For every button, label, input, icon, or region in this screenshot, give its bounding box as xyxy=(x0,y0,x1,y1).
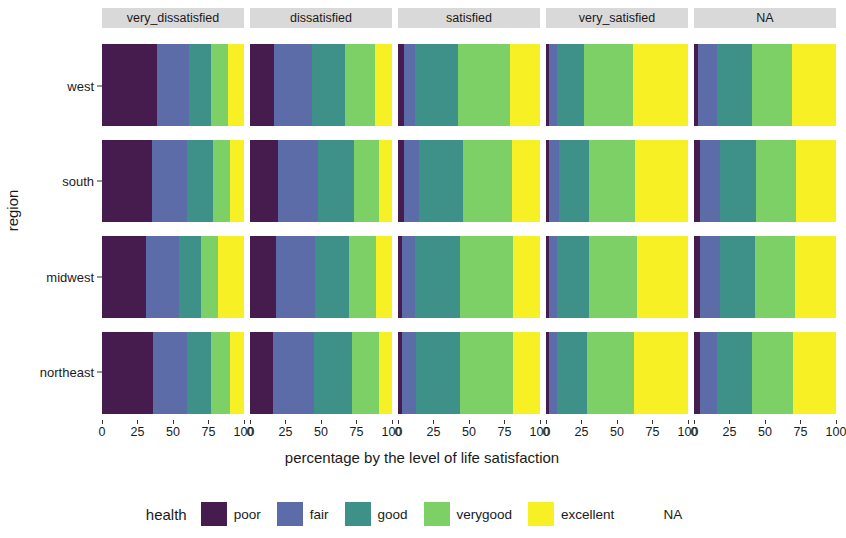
legend-item[interactable]: excellent xyxy=(528,502,614,526)
x-axis-tick-mark xyxy=(285,420,286,424)
x-axis-tick-label: 0 xyxy=(691,425,698,439)
stacked-bar xyxy=(694,332,836,414)
bar-segment-fair xyxy=(278,140,318,222)
bar-segment-excellent xyxy=(379,140,392,222)
x-axis-tick-mark xyxy=(469,420,470,424)
x-axis-tick-label: 0 xyxy=(247,425,254,439)
bar-segment-poor xyxy=(102,236,146,318)
bar-segment-fair xyxy=(273,332,314,414)
bar-segment-verygood xyxy=(589,236,637,318)
facet-plot-area xyxy=(546,38,688,420)
stacked-bar xyxy=(250,236,392,318)
x-axis-tick-label: 50 xyxy=(314,425,328,439)
legend-swatch-fair xyxy=(277,502,303,526)
bar-segment-good xyxy=(559,140,589,222)
bar-segment-fair xyxy=(146,236,179,318)
bar-segment-good xyxy=(717,332,753,414)
bar-segment-good xyxy=(415,44,458,126)
x-axis-tick-mark xyxy=(250,420,251,424)
x-axis-tick-mark xyxy=(173,420,174,424)
bar-segment-poor xyxy=(102,140,152,222)
bar-segment-verygood xyxy=(589,140,636,222)
x-axis-tick-mark xyxy=(398,420,399,424)
facet-strip-label: satisfied xyxy=(398,8,540,28)
legend-item[interactable]: poor xyxy=(201,502,261,526)
x-axis-tick-mark xyxy=(540,420,541,424)
stacked-bar xyxy=(398,140,540,222)
bar-segment-good xyxy=(419,140,463,222)
bar-segment-fair xyxy=(402,236,415,318)
bar-segment-verygood xyxy=(352,332,379,414)
facet-panel: very_satisfied xyxy=(546,8,688,420)
legend-swatch-excellent xyxy=(528,502,554,526)
x-axis-tick-label: 75 xyxy=(646,425,660,439)
bar-segment-verygood xyxy=(752,332,793,414)
x-axis-tick-label: 0 xyxy=(395,425,402,439)
legend-item[interactable]: NA xyxy=(630,502,682,526)
x-axis-tick-mark xyxy=(102,420,103,424)
bar-segment-excellent xyxy=(228,44,244,126)
stacked-bar xyxy=(546,236,688,318)
facet-strip-label: NA xyxy=(694,8,836,28)
y-axis-tick-label: northeast xyxy=(40,365,94,380)
x-axis-tick-label: 75 xyxy=(202,425,216,439)
facet-strip-label: very_dissatisfied xyxy=(102,8,244,28)
bar-segment-excellent xyxy=(637,236,688,318)
bar-segment-poor xyxy=(250,140,278,222)
bar-segment-fair xyxy=(700,332,717,414)
stacked-bar xyxy=(694,140,836,222)
bar-segment-excellent xyxy=(513,332,540,414)
x-axis-tick-mark xyxy=(765,420,766,424)
x-axis-tick-label: 50 xyxy=(166,425,180,439)
stacked-bar xyxy=(250,140,392,222)
facet-plot-area xyxy=(102,38,244,420)
legend-swatch-verygood xyxy=(424,502,450,526)
bar-segment-excellent xyxy=(376,236,392,318)
x-axis-tick-mark xyxy=(137,420,138,424)
bar-segment-verygood xyxy=(213,140,230,222)
bar-segment-fair xyxy=(152,140,188,222)
x-axis-group: 0255075100025507510002550751000255075100… xyxy=(102,420,836,446)
x-axis-tick-mark xyxy=(392,420,393,424)
legend-swatch-good xyxy=(345,502,371,526)
x-axis-tick-label: 100 xyxy=(826,425,846,439)
bar-segment-poor xyxy=(250,44,274,126)
legend-label: good xyxy=(378,507,408,522)
bar-segment-verygood xyxy=(756,140,796,222)
bar-segment-fair xyxy=(549,140,559,222)
stacked-bar xyxy=(398,332,540,414)
y-axis-tick-label: south xyxy=(62,174,94,189)
bar-segment-fair xyxy=(549,44,558,126)
bar-segment-fair xyxy=(549,332,558,414)
facet-panel-grid: very_dissatisfieddissatisfiedsatisfiedve… xyxy=(102,8,836,420)
bar-segment-fair xyxy=(402,332,416,414)
x-axis-tick-mark xyxy=(729,420,730,424)
bar-segment-fair xyxy=(404,44,415,126)
legend-swatch-poor xyxy=(201,502,227,526)
legend-item[interactable]: good xyxy=(345,502,408,526)
bar-segment-good xyxy=(720,236,756,318)
legend: health poorfairgoodverygoodexcellentNA xyxy=(0,494,844,534)
bar-segment-verygood xyxy=(201,236,218,318)
y-axis-title: region xyxy=(0,0,26,420)
legend-label: poor xyxy=(234,507,261,522)
x-axis: 0255075100 xyxy=(250,420,392,446)
x-axis-tick-mark xyxy=(546,420,547,424)
bar-segment-excellent xyxy=(513,236,540,318)
facet-plot-area xyxy=(250,38,392,420)
x-axis-tick-label: 25 xyxy=(279,425,293,439)
legend-item[interactable]: verygood xyxy=(424,502,513,526)
facet-panel: very_dissatisfied xyxy=(102,8,244,420)
bar-segment-good xyxy=(720,140,757,222)
facet-plot-area xyxy=(694,38,836,420)
bar-segment-fair xyxy=(153,332,187,414)
stacked-bar xyxy=(546,140,688,222)
x-axis-tick-label: 75 xyxy=(794,425,808,439)
x-axis-tick-label: 0 xyxy=(99,425,106,439)
stacked-bar xyxy=(250,44,392,126)
legend-item[interactable]: fair xyxy=(277,502,329,526)
bar-segment-excellent xyxy=(218,236,244,318)
x-axis-tick-mark xyxy=(356,420,357,424)
bar-segment-verygood xyxy=(211,44,228,126)
bar-segment-good xyxy=(318,140,354,222)
